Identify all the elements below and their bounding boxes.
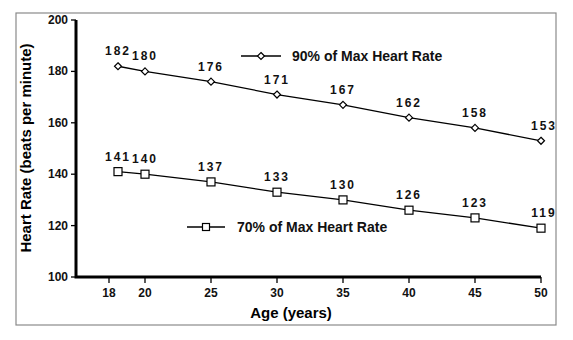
square-marker-icon xyxy=(207,178,215,186)
legend-70: 70% of Max Heart Rate xyxy=(187,219,387,235)
data-label: 153 xyxy=(531,119,557,133)
square-marker-icon xyxy=(141,170,149,178)
data-label: 141 xyxy=(105,150,131,164)
diamond-marker-icon xyxy=(258,53,265,60)
diamond-marker-icon xyxy=(142,68,149,75)
series-group: 1821801761711671621581531411401371331301… xyxy=(105,44,557,232)
diamond-marker-icon xyxy=(208,78,215,85)
diamond-marker-icon xyxy=(274,91,281,98)
data-label: 158 xyxy=(462,106,488,120)
y-axis-title: Heart Rate (beats per minute) xyxy=(17,43,34,252)
x-tick-label: 25 xyxy=(204,286,218,300)
y-tick-label: 140 xyxy=(48,167,68,181)
diamond-marker-icon xyxy=(340,101,347,108)
square-marker-icon xyxy=(273,188,281,196)
diamond-marker-icon xyxy=(406,114,413,121)
square-marker-icon xyxy=(114,168,122,176)
data-label: 133 xyxy=(264,170,290,184)
y-tick-label: 100 xyxy=(48,270,68,284)
legend-70-label: 70% of Max Heart Rate xyxy=(237,219,387,235)
diamond-marker-icon xyxy=(472,124,479,131)
data-label: 130 xyxy=(330,178,356,192)
y-tick-label: 120 xyxy=(48,219,68,233)
data-label: 126 xyxy=(396,188,422,202)
data-label: 171 xyxy=(264,73,290,87)
square-marker-icon xyxy=(405,206,413,214)
legend-90-label: 90% of Max Heart Rate xyxy=(292,48,442,64)
square-marker-icon xyxy=(537,224,545,232)
data-label: 167 xyxy=(330,83,356,97)
x-tick-label: 50 xyxy=(534,286,548,300)
x-tick-label: 30 xyxy=(270,286,284,300)
data-label: 137 xyxy=(198,160,224,174)
y-tick-label: 180 xyxy=(48,64,68,78)
data-label: 182 xyxy=(105,44,131,58)
data-label: 123 xyxy=(462,196,488,210)
diamond-marker-icon xyxy=(538,137,545,144)
data-label: 180 xyxy=(132,49,158,63)
data-label: 119 xyxy=(531,206,556,220)
data-label: 162 xyxy=(396,96,422,110)
data-label: 140 xyxy=(132,152,158,166)
square-marker-icon xyxy=(471,214,479,222)
square-marker-icon xyxy=(203,224,210,231)
x-tick-label: 45 xyxy=(468,286,482,300)
x-axis-title: Age (years) xyxy=(250,304,332,321)
square-marker-icon xyxy=(339,196,347,204)
diamond-marker-icon xyxy=(115,63,122,70)
y-tick-label: 160 xyxy=(48,116,68,130)
x-tick-label: 18 xyxy=(102,286,116,300)
x-axis-ticks: 1820253035404550 xyxy=(102,277,548,300)
x-tick-label: 40 xyxy=(402,286,416,300)
y-tick-label: 200 xyxy=(48,13,68,27)
x-tick-label: 20 xyxy=(138,286,152,300)
heart-rate-chart: 100120140160180200 1820253035404550 Hear… xyxy=(0,0,573,340)
data-label: 176 xyxy=(198,60,224,74)
y-axis-ticks: 100120140160180200 xyxy=(48,13,76,284)
legend-90: 90% of Max Heart Rate xyxy=(241,48,442,64)
x-tick-label: 35 xyxy=(336,286,350,300)
